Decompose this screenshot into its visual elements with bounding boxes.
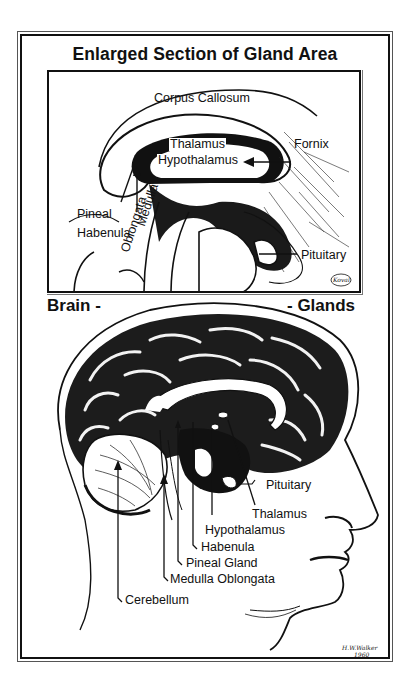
label-hypothalamus: Hypothalamus bbox=[205, 524, 285, 537]
label-pituitary: Pituitary bbox=[266, 479, 311, 492]
label-hypothalamus-inset: Hypothalamus bbox=[157, 154, 239, 167]
inset-enlarged-gland-area: Corpus Callosum Thalamus Hypothalamus Fo… bbox=[47, 70, 361, 293]
label-thalamus: Thalamus bbox=[252, 508, 307, 521]
heading-brain: Brain - bbox=[47, 296, 101, 316]
label-cerebellum: Cerebellum bbox=[125, 594, 189, 607]
label-pituitary-inset: Pituitary bbox=[301, 249, 346, 262]
signature-year: 1960 bbox=[354, 652, 369, 658]
label-pineal-gland: Pineal Gland bbox=[186, 557, 258, 570]
inset-signature: Koval bbox=[333, 277, 350, 283]
label-thalamus-inset: Thalamus bbox=[169, 138, 226, 151]
diagram-title: Enlarged Section of Gland Area bbox=[20, 44, 390, 65]
label-fornix: Fornix bbox=[294, 138, 329, 151]
heading-glands: - Glands bbox=[287, 296, 355, 316]
label-corpus-callosum: Corpus Callosum bbox=[154, 92, 250, 105]
label-habenula: Habenula bbox=[201, 541, 255, 554]
label-medulla-oblongata: Medulla Oblongata bbox=[170, 573, 275, 586]
label-pineal: Pineal bbox=[77, 208, 112, 221]
